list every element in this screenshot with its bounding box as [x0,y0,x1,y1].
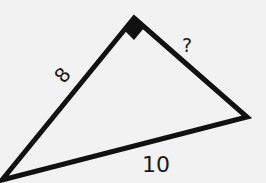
triangle-shape [2,18,247,180]
triangle-diagram: 8 ? 10 [0,0,266,183]
left-leg-label: 8 [49,63,76,88]
right-leg-label: ? [182,34,192,56]
hypotenuse-label: 10 [142,152,170,177]
